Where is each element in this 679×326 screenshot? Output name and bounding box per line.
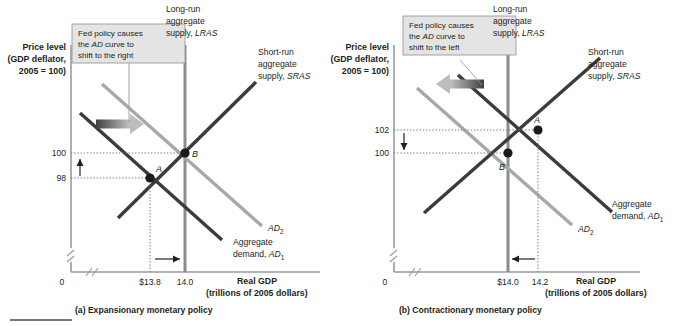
point-b-dot: [180, 148, 189, 157]
sras-line1-b: Short-run: [588, 47, 624, 57]
y-title-line2-b: (GDP deflator,: [331, 54, 390, 64]
y-tick-98-a: 98: [56, 173, 66, 183]
lras-line2-b: aggregate: [493, 16, 532, 26]
callout-line1-b: Fed policy causes: [409, 21, 474, 30]
sras-line1-a: Short-run: [258, 47, 294, 57]
panel-b: A B Fed policy causes the AD curve to sh…: [331, 4, 664, 315]
lras-line1-a: Long-run: [166, 4, 201, 14]
caption-b: (b) Contractionary monetary policy: [399, 305, 542, 315]
y-title-line3-b: 2005 = 100): [342, 66, 389, 76]
sras-line2-a: aggregate: [258, 59, 297, 69]
point-a-dot: [145, 173, 154, 182]
y-tick-102-b: 102: [375, 125, 390, 135]
point-b-label-b: B: [499, 162, 505, 172]
panel-a: A B Fed policy causes the AD curve to sh…: [8, 4, 321, 315]
x-tick-140-b: $14.0: [497, 277, 519, 287]
callout-line2-a: the AD curve to: [78, 40, 134, 49]
callout-line1-a: Fed policy causes: [78, 29, 143, 38]
x-title-line2-b: (trillions of 2005 dollars): [545, 288, 647, 298]
ad1-line2-a: demand, AD1: [233, 249, 285, 261]
ad1-line1-b: Aggregate: [612, 199, 652, 209]
y-tick-100-a: 100: [52, 148, 67, 158]
origin-label-a: 0: [60, 277, 65, 287]
callout-line2-b: the AD curve to: [409, 32, 465, 41]
origin-label-b: 0: [383, 277, 388, 287]
x-axis-title-b: Real GDP (trillions of 2005 dollars): [545, 276, 647, 298]
lras-label-b: Long-run aggregate supply, LRAS: [493, 4, 545, 38]
ad1-label-a: Aggregate demand, AD1: [233, 237, 285, 261]
sras-label-a: Short-run aggregate supply, SRAS: [258, 47, 311, 81]
y-axis-title-b: Price level (GDP deflator, 2005 = 100): [331, 42, 390, 76]
y-title-line3-a: 2005 = 100): [19, 66, 66, 76]
y-title-line1-b: Price level: [345, 42, 389, 52]
point-a-label: A: [155, 164, 162, 174]
ad1-line1-a: Aggregate: [233, 237, 273, 247]
lras-label-a: Long-run aggregate supply, LRAS: [166, 4, 218, 38]
point-a-label-b: A: [533, 115, 540, 125]
y-title-line1-a: Price level: [22, 42, 66, 52]
x-title-line1-a: Real GDP: [237, 276, 277, 286]
y-tick-100-b: 100: [375, 148, 390, 158]
callout-line3-a: shift to the right: [78, 51, 134, 60]
point-b-dot-b: [503, 148, 512, 157]
point-a-dot-b: [533, 125, 542, 134]
lras-line2-a: aggregate: [166, 16, 205, 26]
x-tick-138-a: $13.8: [139, 277, 161, 287]
y-axis-title-a: Price level (GDP deflator, 2005 = 100): [8, 42, 67, 76]
x-tick-142-b: 14.2: [532, 277, 549, 287]
monetary-policy-figure: A B Fed policy causes the AD curve to sh…: [0, 0, 679, 326]
sras-line3-a: supply, SRAS: [258, 71, 311, 81]
x-axis-title-a: Real GDP (trillions of 2005 dollars): [206, 276, 308, 298]
x-title-line1-b: Real GDP: [576, 276, 616, 286]
lras-line1-b: Long-run: [493, 4, 528, 14]
sras-line3-b: supply, SRAS: [588, 71, 641, 81]
caption-a: (a) Expansionary monetary policy: [75, 305, 213, 315]
lras-line3-a: supply, LRAS: [166, 28, 218, 38]
sras-label-b: Short-run aggregate supply, SRAS: [588, 47, 641, 81]
x-tick-140-a: 14.0: [177, 277, 194, 287]
x-title-line2-a: (trillions of 2005 dollars): [206, 288, 308, 298]
callout-line3-b: shift to the left: [409, 43, 460, 52]
sras-line2-b: aggregate: [588, 59, 627, 69]
ad2-label-b: AD2: [577, 224, 594, 236]
ad1-label-b: Aggregate demand, AD1: [612, 199, 664, 223]
ad1-line2-b: demand, AD1: [612, 211, 664, 223]
y-axis-break-b: [390, 250, 397, 262]
y-axis-break-a: [67, 250, 74, 262]
lras-line3-b: supply, LRAS: [493, 28, 545, 38]
point-b-label: B: [192, 149, 198, 159]
y-title-line2-a: (GDP deflator,: [8, 54, 67, 64]
ad2-label-a: AD2: [267, 223, 284, 235]
